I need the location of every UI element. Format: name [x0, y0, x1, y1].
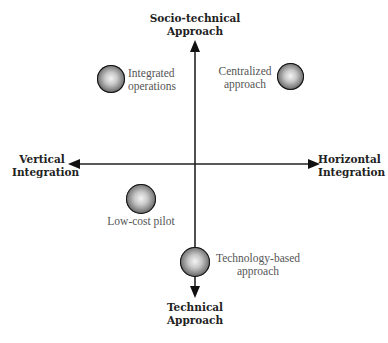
node-label-line1: Integrated — [128, 67, 188, 80]
node-label-line2: approach — [214, 78, 276, 91]
axis-label-bottom-line2: Approach — [155, 314, 235, 327]
arrow-down-icon — [190, 286, 200, 298]
axis-label-right-line2: Integration — [318, 166, 378, 179]
node-label-low-cost-pilot: Low-cost pilot — [101, 215, 181, 228]
node-label-line2: approach — [214, 265, 302, 278]
node-ball-integrated-operations — [97, 65, 125, 93]
node-label-line2: operations — [128, 80, 188, 93]
node-label-centralized-approach: Centralized approach — [214, 65, 276, 91]
axis-label-left: Vertical Integration — [12, 153, 72, 179]
node-ball-centralized-approach — [277, 63, 304, 90]
axis-label-left-line1: Vertical — [12, 153, 72, 166]
axis-label-right-line1: Horizontal — [318, 153, 378, 166]
node-label-line1: Low-cost pilot — [101, 215, 181, 228]
node-ball-low-cost-pilot — [126, 184, 156, 214]
axis-label-bottom: Technical Approach — [155, 301, 235, 327]
node-label-integrated-operations: Integrated operations — [128, 67, 188, 93]
node-label-technology-based-approach: Technology-based approach — [214, 252, 302, 278]
axis-label-left-line2: Integration — [12, 166, 72, 179]
axis-label-bottom-line1: Technical — [155, 301, 235, 314]
node-label-line1: Technology-based — [214, 252, 302, 265]
arrow-up-icon — [190, 40, 200, 52]
axis-label-top-line2: Approach — [145, 25, 245, 38]
axis-label-top: Socio-technical Approach — [145, 12, 245, 38]
quadrant-diagram: Socio-technical Approach Technical Appro… — [0, 0, 388, 343]
axis-label-right: Horizontal Integration — [318, 153, 378, 179]
axis-label-top-line1: Socio-technical — [145, 12, 245, 25]
node-ball-technology-based-approach — [180, 247, 210, 277]
node-label-line1: Centralized — [214, 65, 276, 78]
